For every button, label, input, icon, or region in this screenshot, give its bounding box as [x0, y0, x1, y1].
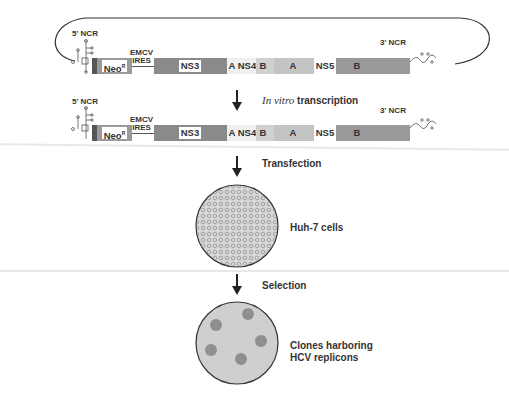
ns4-label-top: NS4	[236, 58, 258, 74]
arrow-down-icon	[230, 274, 244, 296]
transcription-label: In vitro transcription	[262, 94, 358, 106]
neo-label-bottom: NeoR	[102, 127, 127, 139]
ns5b-label-top: B	[352, 58, 362, 74]
emcv-label-top: EMCVIRES	[130, 49, 153, 65]
huh7-cell-dish	[194, 183, 280, 269]
segment-ns5b	[336, 58, 410, 74]
ns5a-label-top: A	[287, 58, 299, 74]
ns3-label-top: NS3	[179, 60, 201, 72]
stem-loop-3prime-icon	[410, 116, 440, 136]
ns4b-label-top: B	[258, 58, 268, 74]
stem-loop-5prime-icon	[70, 38, 94, 74]
arrow-down-icon	[230, 156, 244, 178]
stem-loop-5prime-icon	[70, 105, 94, 141]
clones-label: Clones harboringHCV replicons	[290, 340, 373, 364]
scan-artifact-line	[0, 143, 509, 150]
ns5a-label-bottom: A	[287, 125, 299, 141]
ns5b-label-bottom: B	[352, 125, 362, 141]
emcv-label-bottom: EMCVIRES	[130, 116, 153, 132]
ns4a-label-top: A	[228, 58, 236, 74]
clone-dish	[194, 300, 280, 386]
arrow-down-icon	[230, 90, 244, 112]
transfection-label: Transfection	[262, 158, 321, 169]
stem-loop-3prime-icon	[410, 50, 440, 70]
neo-label-top: NeoR	[102, 60, 127, 72]
ncr3-label-bottom: 3' NCR	[380, 106, 406, 115]
ns5-label-top: NS5	[314, 60, 336, 72]
ncr5-label-top: 5' NCR	[72, 29, 98, 38]
linker-line	[132, 133, 154, 134]
scan-artifact-line	[0, 270, 509, 272]
selection-label: Selection	[262, 280, 306, 291]
huh7-cells-label: Huh-7 cells	[290, 222, 343, 233]
ncr3-label-top: 3' NCR	[380, 38, 406, 47]
ns3-label-bottom: NS3	[179, 127, 201, 139]
ns4a-label-bottom: A	[228, 125, 236, 141]
ns4-label-bottom: NS4	[236, 125, 258, 141]
linker-line	[132, 66, 154, 67]
ns4b-label-bottom: B	[258, 125, 268, 141]
segment-ns5b	[336, 125, 410, 141]
ns5-label-bottom: NS5	[314, 127, 336, 139]
